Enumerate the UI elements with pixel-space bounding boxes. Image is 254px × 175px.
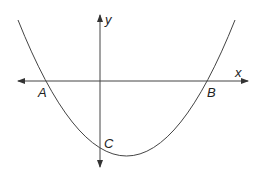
point-c-label: C — [104, 136, 114, 151]
diagram-canvas: y x A B C — [0, 0, 254, 175]
x-axis-label: x — [234, 65, 242, 80]
parabola-curve — [18, 20, 235, 156]
y-axis-label: y — [104, 12, 113, 27]
point-b-label: B — [207, 85, 216, 100]
parabola-diagram: y x A B C — [0, 0, 254, 175]
point-a-label: A — [37, 85, 47, 100]
